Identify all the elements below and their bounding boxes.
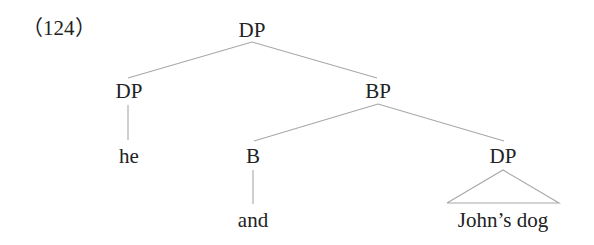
- branch-bp-to-right-dp: [378, 104, 504, 141]
- branch-bp-to-b: [254, 104, 378, 141]
- node-root-dp: DP: [239, 20, 266, 41]
- node-bp: BP: [365, 81, 391, 102]
- terminal-johns-dog: John’s dog: [458, 210, 548, 231]
- branch-root-to-left-dp: [128, 42, 252, 78]
- node-left-dp: DP: [116, 81, 143, 102]
- terminal-he: he: [119, 146, 139, 167]
- node-right-dp: DP: [490, 146, 517, 167]
- terminal-and: and: [238, 210, 268, 231]
- node-b: B: [246, 146, 260, 167]
- triangle-right-dp: [447, 170, 559, 203]
- branch-root-to-bp: [252, 42, 377, 78]
